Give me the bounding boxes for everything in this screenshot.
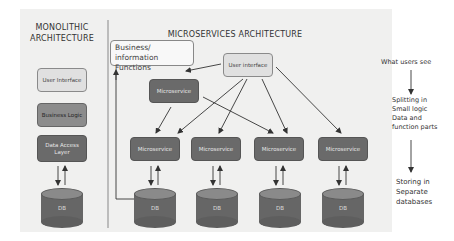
side-note-splitting: Splitting in Small logic Data and functi… xyxy=(392,96,437,132)
side-note-splitting-line4: function parts xyxy=(392,123,437,132)
arrow-mid-to-ms1 xyxy=(156,107,171,133)
arrow-mid-to-ms3 xyxy=(203,97,273,133)
arrow-ui-to-business xyxy=(186,64,221,71)
side-note-storing-line2: Separate xyxy=(396,187,432,197)
side-note-what-users-see: What users see xyxy=(381,58,431,67)
side-note-splitting-line3: Data and xyxy=(392,114,437,123)
connector-lines xyxy=(0,0,454,241)
side-note-splitting-line1: Splitting in xyxy=(392,96,437,105)
arrow-ui-to-ms4 xyxy=(276,67,341,133)
feedback-line xyxy=(116,72,134,199)
side-note-storing-line1: Storing in xyxy=(396,177,432,187)
side-note-storing: Storing in Separate databases xyxy=(396,177,432,207)
arrow-ui-to-ms3 xyxy=(262,79,287,133)
side-note-splitting-line2: Small logic xyxy=(392,105,437,114)
side-note-storing-line3: databases xyxy=(396,197,432,207)
